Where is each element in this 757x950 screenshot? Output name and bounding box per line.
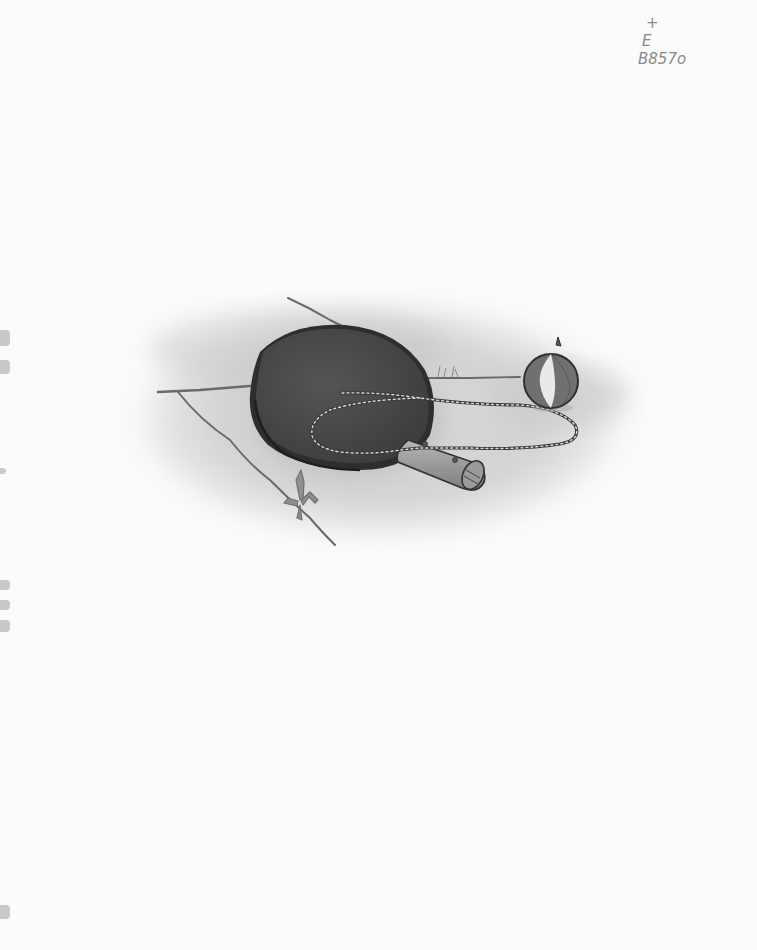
paddle-illustration xyxy=(0,0,757,950)
